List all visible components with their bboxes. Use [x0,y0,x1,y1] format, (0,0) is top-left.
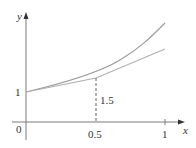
origin-label: 0 [16,123,22,135]
y-axis-label: y [16,10,22,22]
euler-method-figure: y x 1 0 0.5 1 1.5 [0,0,196,148]
x-tick-label-1: 1 [162,128,168,140]
x-tick-label-half: 0.5 [88,128,102,140]
y-axis-arrow-icon [24,12,29,19]
dashed-value-label: 1.5 [100,94,114,106]
x-axis-label: x [182,124,188,136]
y-tick-label-1: 1 [15,86,21,98]
